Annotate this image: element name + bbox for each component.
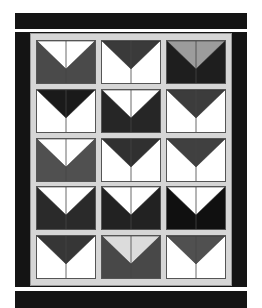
quilt-block-r5-c3	[167, 236, 225, 278]
quilt-block-r4-c2	[102, 187, 160, 229]
flying-geese-triangle-icon	[37, 90, 95, 132]
quilt-block-r3-c3	[167, 139, 225, 181]
flying-geese-triangle-icon	[167, 90, 225, 132]
quilt-block-r4-c3	[167, 187, 225, 229]
bottom-border-bar	[15, 291, 247, 308]
flying-geese-triangle-icon	[167, 187, 225, 229]
flying-geese-triangle-icon	[167, 139, 225, 181]
scan-artifact-mark	[26, 0, 33, 4]
quilt-block-r1-c2	[102, 41, 160, 83]
flying-geese-triangle-icon	[37, 187, 95, 229]
quilt-block-r4-c1	[37, 187, 95, 229]
top-border-bar	[15, 13, 247, 29]
flying-geese-triangle-icon	[102, 187, 160, 229]
quilt-block-r1-c3	[167, 41, 225, 83]
quilt-block-r1-c1	[37, 41, 95, 83]
quilt-block-r2-c1	[37, 90, 95, 132]
flying-geese-triangle-icon	[167, 236, 225, 278]
flying-geese-triangle-icon	[102, 139, 160, 181]
flying-geese-triangle-icon	[102, 236, 160, 278]
quilt-block-r3-c2	[102, 139, 160, 181]
flying-geese-triangle-icon	[37, 236, 95, 278]
flying-geese-triangle-icon	[37, 139, 95, 181]
quilt-block-r3-c1	[37, 139, 95, 181]
flying-geese-triangle-icon	[167, 41, 225, 83]
quilt-block-r5-c1	[37, 236, 95, 278]
flying-geese-triangle-icon	[37, 41, 95, 83]
quilt-block-r2-c2	[102, 90, 160, 132]
quilt-block-r2-c3	[167, 90, 225, 132]
flying-geese-triangle-icon	[102, 41, 160, 83]
flying-geese-triangle-icon	[102, 90, 160, 132]
quilt-block-r5-c2	[102, 236, 160, 278]
